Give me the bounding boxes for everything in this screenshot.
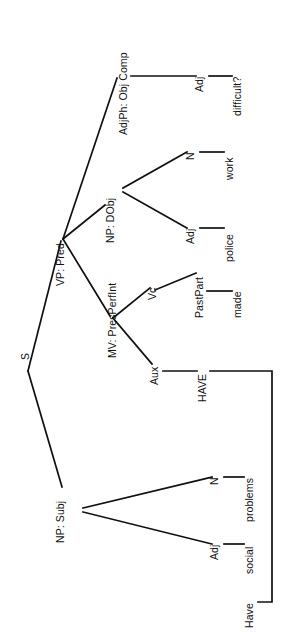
movement-bracket (210, 371, 272, 602)
node-vc: Vc (147, 288, 158, 300)
node-vp-pred: VP: Pred (55, 243, 66, 286)
node-n-subj: N (209, 477, 220, 485)
word-made: made (232, 291, 243, 318)
node-s: S (20, 353, 31, 360)
word-difficult: difficult? (232, 77, 243, 116)
node-adj-objcomp: Adj (194, 77, 205, 92)
edge-vc-pastpart (155, 273, 196, 290)
node-adj-dobj: Adj (185, 229, 196, 244)
edge-mv-aux (113, 318, 152, 364)
edge-npsubj-n (83, 477, 212, 508)
edge-vppred-mv (63, 239, 110, 316)
word-have-base: HAVE (197, 374, 208, 402)
edge-s-npsubj (28, 371, 62, 487)
edge-npdobj-n (123, 152, 187, 188)
edge-npsubj-adj (83, 512, 212, 544)
word-problems: problems (244, 478, 255, 522)
node-mv-presperfint: MV: PresPerfInt (107, 283, 118, 358)
node-adjph-obj-comp: AdjPh: Obj Comp (118, 52, 129, 135)
edge-npdobj-adj (123, 192, 187, 228)
word-police: police (224, 234, 235, 262)
node-np-dobj: NP: DObj (105, 198, 116, 243)
node-pastpart: PastPart (194, 277, 205, 318)
word-work: work (224, 157, 235, 180)
node-n-dobj: N (185, 152, 196, 160)
node-np-subj: NP: Subj (55, 501, 66, 543)
word-have-fronted: Have (244, 603, 255, 628)
syntax-tree-figure: S NP: Subj VP: Pred MV: PresPerfInt NP: … (0, 0, 288, 641)
node-adj-subj: Adj (209, 545, 220, 560)
tree-edges-canvas (0, 0, 288, 641)
word-social: social (244, 547, 255, 574)
node-aux: Aux (149, 367, 160, 385)
edge-mv-vc (113, 288, 150, 318)
